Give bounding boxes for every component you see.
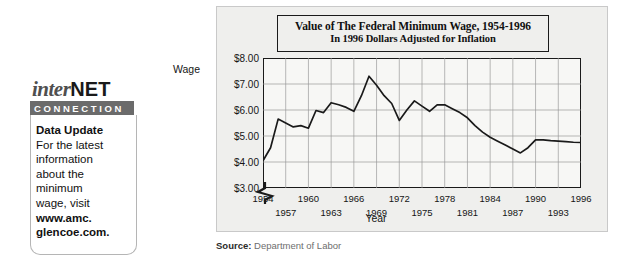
- x-tick-label: 1978: [434, 193, 455, 204]
- x-tick-label: 1990: [525, 193, 546, 204]
- x-tick-label: 1966: [343, 193, 364, 204]
- callout-body: Data Update For the latest information a…: [30, 115, 137, 255]
- x-tick-label: 1993: [548, 207, 569, 218]
- y-tick-label: $5.00: [234, 131, 259, 142]
- y-tick-label: $4.00: [234, 157, 259, 168]
- chart-title: Value of The Federal Minimum Wage, 1954-…: [282, 20, 544, 33]
- callout-line-1: For the latest: [36, 138, 129, 153]
- logo-net-text: NET: [70, 78, 110, 100]
- callout-url-line-2[interactable]: glencoe.com.: [36, 225, 129, 240]
- x-tick-label: 1957: [275, 207, 296, 218]
- internet-connection-logo: interNET: [32, 78, 142, 100]
- x-tick-label: 1987: [502, 207, 523, 218]
- source-note: Source: Department of Labor: [216, 240, 341, 251]
- x-tick-label: 1981: [457, 207, 478, 218]
- chart-title-box: Value of The Federal Minimum Wage, 1954-…: [277, 15, 549, 52]
- plot-area: $8.00$7.00$6.00$5.00$4.00$3.00 195419601…: [263, 58, 581, 188]
- x-tick-label: 1963: [321, 207, 342, 218]
- chart-subtitle: In 1996 Dollars Adjusted for Inflation: [282, 33, 544, 46]
- y-tick-label: $8.00: [234, 53, 259, 64]
- y-axis-title: Wage: [173, 63, 200, 75]
- x-tick-label: 1984: [480, 193, 501, 204]
- logo-inter-text: inter: [32, 77, 70, 101]
- y-tick-label: $7.00: [234, 79, 259, 90]
- x-tick-label: 1975: [411, 207, 432, 218]
- source-text: Department of Labor: [254, 240, 341, 251]
- plot-svg: [263, 58, 581, 188]
- callout-line-3: about the: [36, 167, 129, 182]
- x-tick-label: 1960: [298, 193, 319, 204]
- callout-line-4: minimum: [36, 181, 129, 196]
- source-prefix: Source:: [216, 240, 251, 251]
- y-tick-label: $6.00: [234, 105, 259, 116]
- internet-connection-callout: interNET CONNECTION Data Update For the …: [30, 78, 142, 255]
- x-axis-title: Year: [365, 212, 386, 224]
- chart-figure: Value of The Federal Minimum Wage, 1954-…: [216, 6, 608, 232]
- x-tick-label: 1972: [389, 193, 410, 204]
- callout-heading: Data Update: [36, 123, 129, 138]
- callout-url-line-1[interactable]: www.amc.: [36, 211, 129, 226]
- callout-line-2: information: [36, 152, 129, 167]
- x-tick-label: 1996: [570, 193, 591, 204]
- axis-break-icon: [254, 182, 276, 204]
- callout-line-5: wage, visit: [36, 196, 129, 211]
- logo-connection-bar: CONNECTION: [30, 101, 134, 115]
